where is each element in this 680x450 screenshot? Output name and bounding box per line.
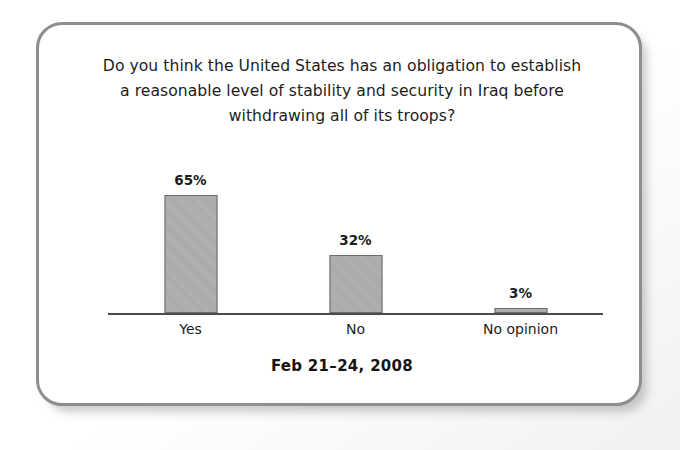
- category-label-no: No: [273, 321, 438, 337]
- bar-slot-no-opinion: 3%: [438, 135, 603, 313]
- bar-slot-yes: 65%: [108, 135, 273, 313]
- category-label-no-opinion: No opinion: [438, 321, 603, 337]
- bar-value-yes: 65%: [174, 172, 206, 188]
- chart-caption-date: Feb 21–24, 2008: [61, 357, 623, 375]
- chart-title-line-2: a reasonable level of stability and secu…: [61, 79, 623, 104]
- bar-value-no: 32%: [339, 232, 371, 248]
- chart-title-line-1: Do you think the United States has an ob…: [61, 54, 623, 79]
- x-axis-baseline: [108, 313, 603, 315]
- bar-no[interactable]: [329, 255, 382, 313]
- bar-yes[interactable]: [164, 195, 217, 313]
- chart-title: Do you think the United States has an ob…: [61, 54, 623, 129]
- x-axis-category-labels: Yes No No opinion: [108, 321, 603, 345]
- chart-card: Do you think the United States has an ob…: [36, 22, 642, 406]
- bar-chart-plot-area: 65% 32% 3% Yes No No opinion: [39, 135, 639, 335]
- category-label-yes: Yes: [108, 321, 273, 337]
- bar-value-no-opinion: 3%: [509, 285, 532, 301]
- chart-title-line-3: withdrawing all of its troops?: [61, 104, 623, 129]
- bar-group: 65% 32% 3%: [108, 135, 603, 313]
- bar-slot-no: 32%: [273, 135, 438, 313]
